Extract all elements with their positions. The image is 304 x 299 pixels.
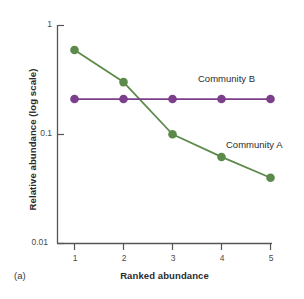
x-tick-label-2: 2 [116,253,132,263]
y-axis-title: Relative abundance (log scale) [27,40,38,240]
x-tick-label-5: 5 [263,253,279,263]
data-point [266,173,275,182]
x-tick-label-3: 3 [165,253,181,263]
x-tick-label-4: 4 [214,253,230,263]
data-series-group [70,46,275,182]
series-label-community-a: Community A [226,139,283,150]
x-axis-title: Ranked abundance [57,270,272,281]
figure-panel: 1 0.1 0.01 1 2 3 4 5 Relative abundance … [0,0,304,299]
data-point [168,95,177,104]
data-point [217,95,226,104]
x-tick-label-1: 1 [67,253,83,263]
data-point [70,46,79,55]
data-point [217,153,226,162]
panel-label: (a) [14,270,26,281]
series-line-community-a [75,50,271,178]
data-point [266,95,275,104]
data-point [70,95,79,104]
data-point [119,78,128,87]
series-label-community-b: Community B [198,73,255,84]
y-tick-label-1: 1 [26,19,52,29]
data-point [168,130,177,139]
data-point [119,95,128,104]
